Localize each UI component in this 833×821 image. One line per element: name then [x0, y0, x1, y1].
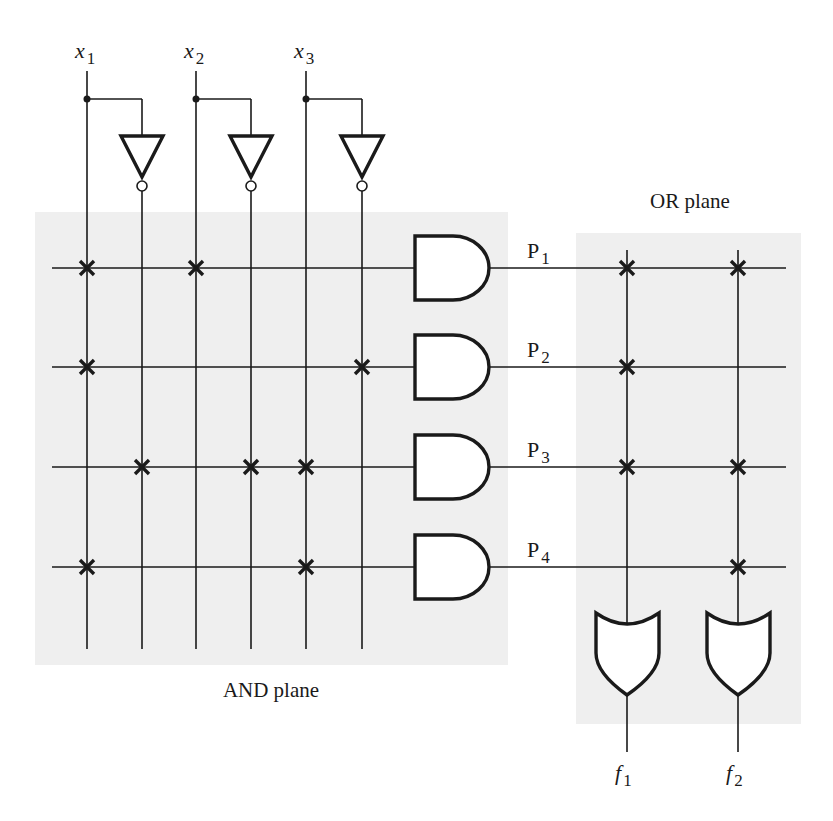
input-label-x1: x1: [74, 38, 95, 68]
and-gate-icon: [415, 236, 489, 300]
inverter-bubble-icon: [137, 181, 147, 191]
inverter-bubble-icon: [357, 181, 367, 191]
inverter-icon: [230, 136, 272, 177]
input-label-x3: x3: [293, 38, 314, 68]
input-label-x2: x2: [183, 38, 204, 68]
output-label-f1: f1: [615, 760, 632, 790]
inverter-icon: [341, 136, 383, 177]
product-label-p1: P1: [527, 238, 550, 268]
product-label-p3: P3: [527, 437, 550, 467]
output-label-f2: f2: [726, 760, 743, 790]
and-gate-icon: [415, 535, 489, 599]
and-plane-label: AND plane: [223, 678, 319, 702]
or-plane-label: OR plane: [650, 189, 730, 213]
and-gate-icon: [415, 435, 489, 499]
product-label-p4: P4: [527, 537, 550, 567]
product-label-p2: P2: [527, 337, 550, 367]
inverter-bubble-icon: [246, 181, 256, 191]
pla-diagram: x1x2x3P1P2P3P4f1f2AND planeOR plane: [0, 0, 833, 821]
and-gate-icon: [415, 335, 489, 399]
inverter-icon: [121, 136, 163, 177]
